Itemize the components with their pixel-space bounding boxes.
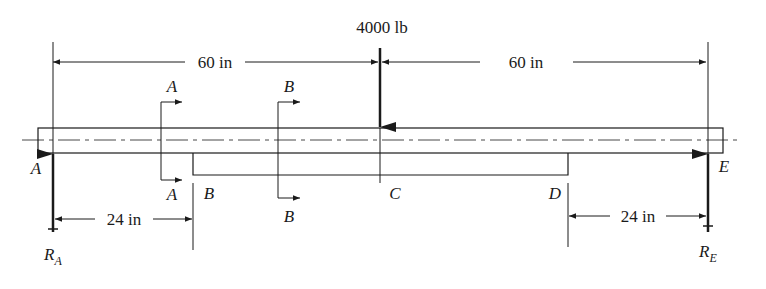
- point-d-label: D: [548, 184, 562, 203]
- point-b-label: B: [204, 184, 215, 203]
- dimension-left-offset: 24 in: [107, 210, 142, 229]
- section-cut-b: [278, 102, 300, 198]
- reaction-e-label: RE: [698, 242, 717, 265]
- section-a-top-label: A: [166, 77, 178, 96]
- point-e-label: E: [718, 157, 730, 176]
- section-b-bottom-label: B: [284, 207, 295, 226]
- load-label: 4000 lb: [356, 18, 407, 37]
- section-a-bottom-label: A: [166, 185, 178, 204]
- dimension-left-span: 60 in: [198, 53, 233, 72]
- reaction-a-label: RA: [43, 245, 62, 268]
- section-cut-a: [161, 102, 182, 180]
- beam-diagram: 60 in 60 in 4000 lb A A B B A B C D E RA…: [0, 0, 766, 289]
- section-b-top-label: B: [284, 77, 295, 96]
- point-a-label: A: [30, 159, 42, 178]
- dimension-right-offset: 24 in: [621, 207, 656, 226]
- point-c-label: C: [389, 184, 401, 203]
- dimension-bottom: [55, 216, 706, 219]
- dimension-right-span: 60 in: [509, 53, 544, 72]
